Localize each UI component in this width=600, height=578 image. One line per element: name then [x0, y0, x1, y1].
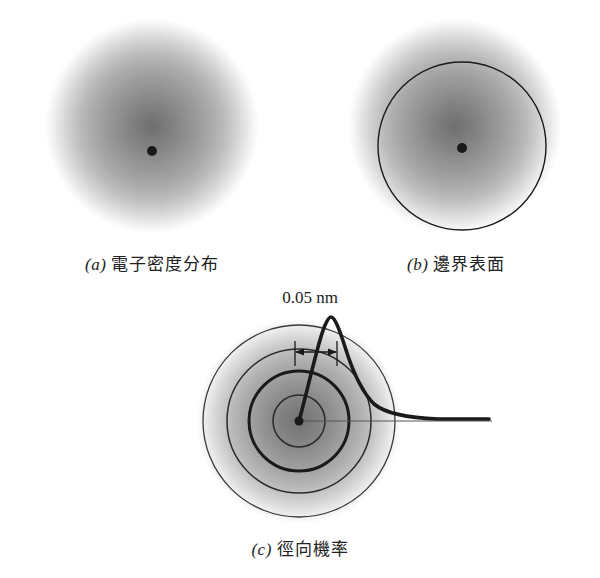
figure-root: 0.05 nm (a) 電子密度分布 (b) 邊界表面 (c) 徑向機率	[0, 0, 600, 578]
caption-c-enumerator: (c)	[251, 540, 271, 559]
caption-b-text: 邊界表面	[433, 254, 505, 274]
dimension-label: 0.05 nm	[235, 288, 385, 308]
caption-b-enumerator: (b)	[407, 255, 428, 274]
nucleus-dot-a	[147, 146, 157, 156]
caption-panel-c: (c) 徑向機率	[188, 535, 412, 560]
caption-panel-a: (a) 電子密度分布	[40, 250, 264, 275]
nucleus-dot-c	[295, 417, 304, 426]
nucleus-dot-b	[457, 143, 467, 153]
caption-c-text: 徑向機率	[277, 539, 349, 559]
caption-a-enumerator: (a)	[85, 255, 106, 274]
caption-panel-b: (b) 邊界表面	[344, 250, 568, 275]
caption-a-text: 電子密度分布	[111, 254, 219, 274]
dimension-arrowhead-right	[328, 348, 337, 355]
